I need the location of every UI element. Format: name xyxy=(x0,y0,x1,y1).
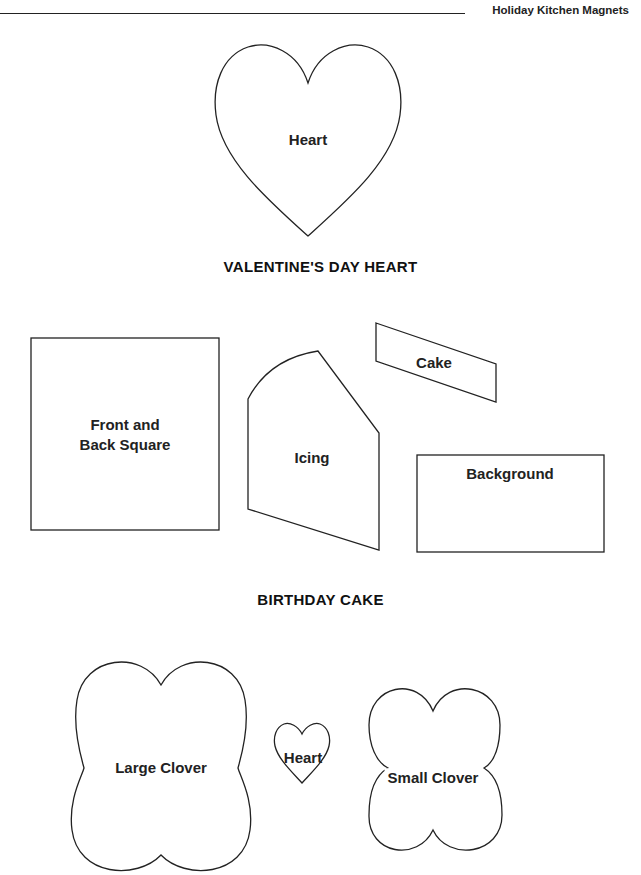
front-back-square-label-line1: Front and xyxy=(90,415,159,435)
small-heart-label: Heart xyxy=(284,748,322,768)
heart-label: Heart xyxy=(289,130,327,150)
valentines-caption: VALENTINE'S DAY HEART xyxy=(0,258,641,275)
background-label: Background xyxy=(466,464,554,484)
cake-label: Cake xyxy=(416,353,452,373)
icing-label: Icing xyxy=(294,448,329,468)
front-back-square-label-line2: Back Square xyxy=(80,435,171,455)
large-clover-label: Large Clover xyxy=(115,758,207,778)
birthday-cake-caption: BIRTHDAY CAKE xyxy=(0,591,641,608)
small-clover-label: Small Clover xyxy=(385,768,482,788)
